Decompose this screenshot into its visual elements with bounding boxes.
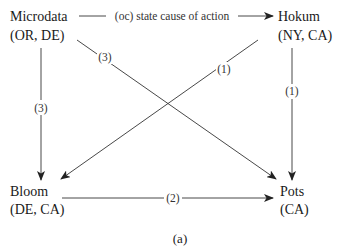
diagram-canvas: (oc) state cause of action (3) (3) (1) (… — [0, 0, 337, 250]
node-hokum-states: (NY, CA) — [278, 28, 333, 44]
node-pots-states: (CA) — [280, 202, 309, 218]
node-hokum: Hokum (NY, CA) — [278, 9, 333, 44]
node-bloom-name: Bloom — [10, 184, 48, 199]
node-pots-name: Pots — [280, 184, 304, 199]
edge-label-hokum-bloom: (1) — [217, 63, 231, 76]
edge-label-bloom-pots: (2) — [166, 192, 180, 205]
edge-label-microdata-hokum: (oc) state cause of action — [115, 10, 230, 23]
node-pots: Pots (CA) — [280, 184, 309, 218]
edge-label-microdata-bloom: (3) — [34, 102, 48, 115]
edge-label-microdata-pots: (3) — [98, 51, 112, 64]
edge-hokum-bloom — [61, 40, 258, 179]
node-bloom: Bloom (DE, CA) — [10, 184, 65, 218]
node-bloom-states: (DE, CA) — [10, 202, 65, 218]
node-microdata-name: Microdata — [10, 9, 68, 24]
node-hokum-name: Hokum — [278, 9, 320, 24]
node-microdata: Microdata (OR, DE) — [10, 9, 68, 44]
node-microdata-states: (OR, DE) — [10, 28, 65, 44]
edge-label-hokum-pots: (1) — [285, 85, 299, 98]
figure-caption: (a) — [173, 231, 187, 246]
